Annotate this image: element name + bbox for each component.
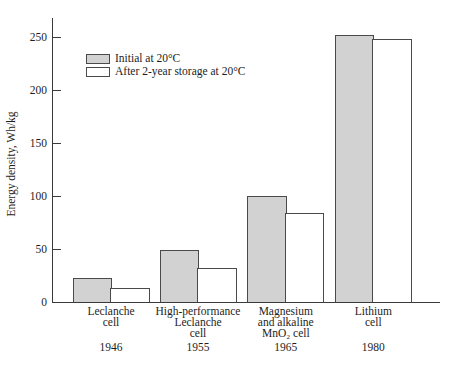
year-label: 1980 [313, 341, 433, 353]
legend-label-stored: After 2-year storage at 20°C [115, 65, 245, 78]
y-tick [53, 249, 61, 250]
category-label: Lithiumcell [313, 306, 433, 328]
y-tick-label: 200 [17, 83, 47, 97]
y-tick [53, 90, 61, 91]
y-tick-label: 0 [17, 295, 47, 309]
category-label-line: MnO₂ cell [226, 328, 346, 339]
bar-initial [160, 250, 200, 303]
y-tick [53, 143, 61, 144]
legend-item-initial: Initial at 20°C [86, 52, 245, 65]
legend-item-stored: After 2-year storage at 20°C [86, 65, 245, 78]
y-tick [53, 196, 61, 197]
y-tick-label: 150 [17, 136, 47, 150]
bar-initial [335, 35, 375, 303]
x-axis-line [52, 302, 440, 303]
bar-stored [197, 268, 237, 303]
bar-stored [285, 213, 325, 303]
y-axis-title: Energy density, Wh/kg [4, 98, 18, 230]
legend: Initial at 20°C After 2-year storage at … [86, 52, 245, 78]
bar-stored [110, 288, 150, 303]
legend-swatch-initial-icon [86, 54, 110, 64]
figure: Energy density, Wh/kg 050100150200250Lec… [0, 0, 452, 368]
bar-initial [247, 196, 287, 303]
y-tick [53, 37, 61, 38]
legend-swatch-stored-icon [86, 67, 110, 77]
y-tick [53, 302, 61, 303]
bar-initial [73, 278, 113, 303]
legend-label-initial: Initial at 20°C [115, 52, 180, 65]
y-axis-line [52, 18, 53, 303]
y-tick-label: 50 [17, 242, 47, 256]
bar-stored [372, 39, 412, 303]
y-tick-label: 250 [17, 30, 47, 44]
y-tick-label: 100 [17, 189, 47, 203]
category-label-line: cell [313, 317, 433, 328]
